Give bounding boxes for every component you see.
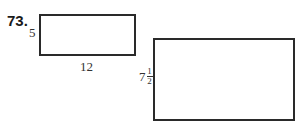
- fraction-part: 1 2: [147, 67, 153, 86]
- small-rectangle-width-label: 12: [80, 59, 93, 75]
- problem-number: 73.: [7, 12, 28, 29]
- fraction-whole: 7: [139, 69, 146, 85]
- small-rectangle-height-label: 5: [29, 25, 36, 41]
- large-rectangle: [153, 38, 295, 121]
- large-rectangle-height-label: 7 1 2: [139, 67, 153, 86]
- fraction-denominator: 2: [147, 77, 152, 86]
- fraction-numerator: 1: [147, 67, 152, 76]
- small-rectangle: [39, 14, 136, 56]
